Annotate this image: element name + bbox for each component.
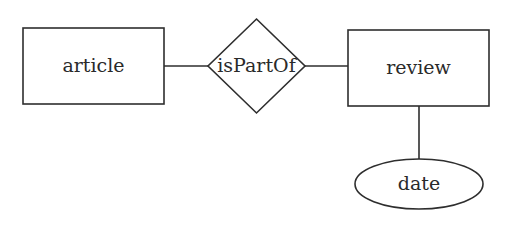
entity-review-label: review bbox=[386, 56, 451, 78]
er-diagram: article isPartOf review date bbox=[0, 0, 518, 228]
relationship-isPartOf-label: isPartOf bbox=[217, 54, 297, 76]
attribute-date[interactable]: date bbox=[355, 159, 483, 209]
entity-review[interactable]: review bbox=[348, 30, 489, 106]
entity-article-label: article bbox=[62, 54, 124, 76]
relationship-isPartOf[interactable]: isPartOf bbox=[208, 19, 305, 113]
entity-article[interactable]: article bbox=[23, 28, 164, 104]
attribute-date-label: date bbox=[398, 172, 440, 194]
